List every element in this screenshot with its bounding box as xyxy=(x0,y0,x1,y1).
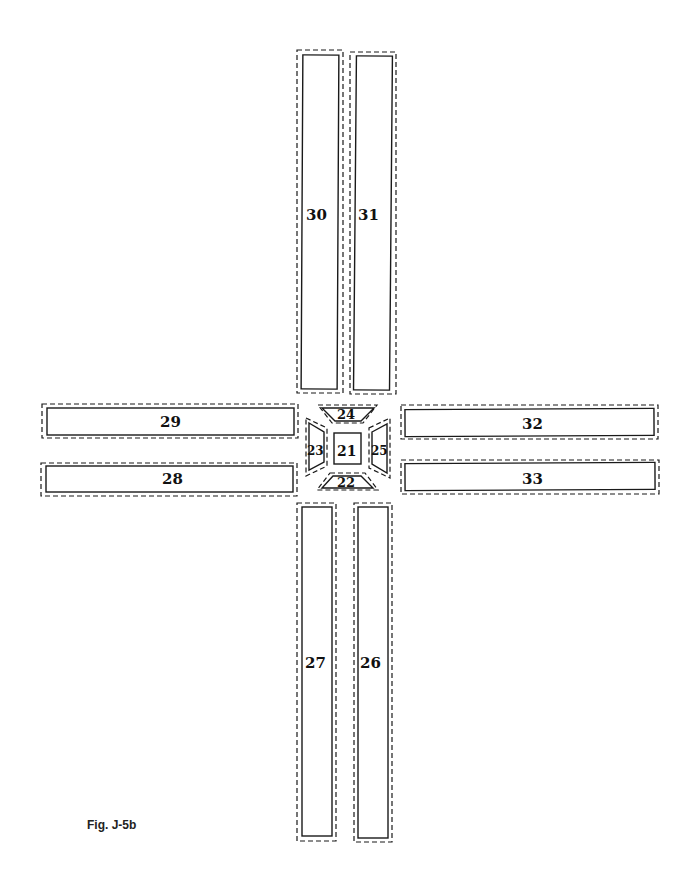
piece-label-32: 32 xyxy=(522,415,543,433)
piece-label-24: 24 xyxy=(337,407,355,422)
piece-26: 26 xyxy=(354,503,392,842)
piece-24: 24 xyxy=(318,405,377,423)
piece-label-28: 28 xyxy=(162,470,183,488)
piece-25: 25 xyxy=(369,418,390,478)
figure-caption: Fig. J-5b xyxy=(87,818,136,832)
piece-label-21: 21 xyxy=(337,443,356,459)
piece-33: 33 xyxy=(401,460,659,494)
piece-32: 32 xyxy=(401,405,658,439)
pattern-diagram: 30 31 29 28 32 33 24 23 21 xyxy=(0,0,699,894)
piece-label-33: 33 xyxy=(522,470,543,488)
piece-31: 31 xyxy=(350,52,396,394)
piece-label-29: 29 xyxy=(160,413,181,431)
piece-label-25: 25 xyxy=(371,444,388,458)
piece-30: 30 xyxy=(297,50,343,393)
piece-label-22: 22 xyxy=(337,475,355,490)
piece-label-27: 27 xyxy=(305,654,326,672)
piece-label-30: 30 xyxy=(306,206,327,224)
piece-label-23: 23 xyxy=(307,444,324,458)
piece-22: 22 xyxy=(317,473,378,490)
piece-21: 21 xyxy=(334,433,361,464)
piece-28: 28 xyxy=(41,463,297,496)
piece-label-26: 26 xyxy=(360,654,381,672)
piece-23: 23 xyxy=(306,418,327,476)
piece-27: 27 xyxy=(297,503,336,841)
piece-label-31: 31 xyxy=(358,206,379,224)
piece-29: 29 xyxy=(42,404,298,438)
